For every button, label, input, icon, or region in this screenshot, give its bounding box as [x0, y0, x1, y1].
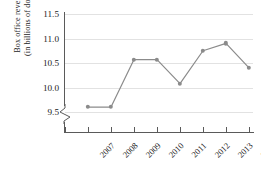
chart-container: Box office revenues (in billions of doll…: [0, 0, 261, 170]
